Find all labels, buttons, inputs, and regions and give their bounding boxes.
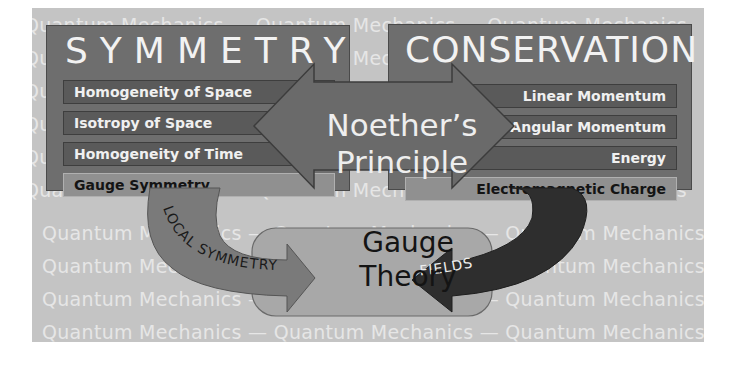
diagram-canvas: Quantum Mechanics — Quantum Mechanics — …	[32, 8, 704, 342]
gauge-line-1: Gauge	[328, 226, 488, 260]
gauge-line-2: Theory	[328, 260, 488, 294]
noether-principle-label: Noether’s Principle	[302, 107, 502, 181]
noether-line-1: Noether’s	[302, 107, 502, 144]
noether-line-2: Principle	[302, 144, 502, 181]
gauge-theory-label: Gauge Theory	[328, 226, 488, 294]
